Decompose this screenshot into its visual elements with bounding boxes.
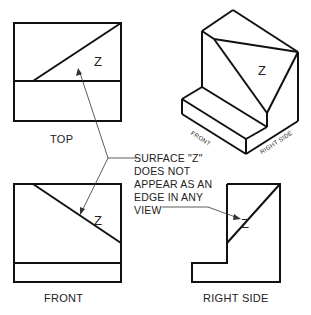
- note-line: VIEW: [134, 204, 212, 217]
- note-line: EDGE IN ANY: [134, 191, 212, 204]
- top-surface-z-label: Z: [94, 54, 102, 69]
- front-surface-z-label: Z: [94, 213, 102, 228]
- front-view: [14, 184, 121, 282]
- isometric-surface-z-label: Z: [258, 63, 266, 78]
- top-view: [14, 23, 121, 121]
- front-view-label: FRONT: [44, 292, 83, 304]
- note-line: DOES NOT: [134, 165, 212, 178]
- note-line: APPEAR AS AN: [134, 178, 212, 191]
- right-side-surface-z-label: Z: [241, 216, 249, 231]
- surface-note: SURFACE "Z" DOES NOT APPEAR AS AN EDGE I…: [134, 152, 212, 217]
- right-side-view-label: RIGHT SIDE: [203, 292, 269, 304]
- isometric-view: [182, 10, 298, 154]
- note-line: SURFACE "Z": [134, 152, 212, 165]
- top-view-label: TOP: [50, 133, 73, 145]
